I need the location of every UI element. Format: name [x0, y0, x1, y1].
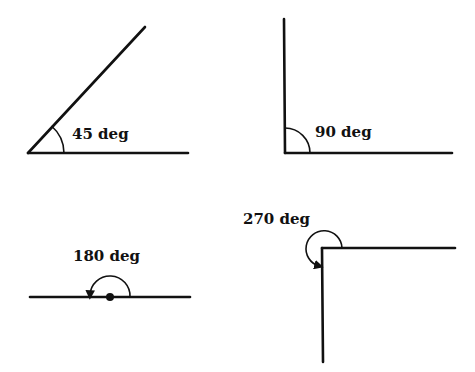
angle-45-figure: 45 deg: [28, 27, 188, 153]
angle-180-vertex-dot: [106, 293, 114, 301]
angle-diagram: 45 deg 90 deg 180 deg 270 deg: [0, 0, 475, 372]
angle-45-arc: [52, 126, 65, 153]
angle-45-label: 45 deg: [72, 125, 129, 143]
angle-270-label: 270 deg: [243, 210, 311, 228]
angle-90-figure: 90 deg: [284, 19, 452, 153]
angle-270-rotated-ray: [322, 248, 323, 362]
angle-90-arc: [285, 128, 310, 153]
angle-180-figure: 180 deg: [30, 247, 190, 301]
angle-180-label: 180 deg: [73, 247, 141, 265]
angle-90-rotated-ray: [284, 19, 285, 153]
diagram-svg: 45 deg 90 deg 180 deg 270 deg: [0, 0, 475, 372]
angle-90-label: 90 deg: [315, 123, 372, 141]
angle-270-figure: 270 deg: [243, 210, 455, 362]
